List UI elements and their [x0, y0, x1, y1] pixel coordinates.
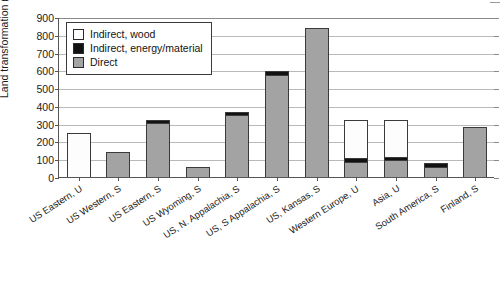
bar-segment-ind-wood [67, 133, 91, 177]
bar-segment-direct [225, 115, 249, 177]
bar-segment-direct [186, 167, 210, 177]
stacked-bar[interactable] [344, 120, 368, 177]
legend-label: Direct [90, 56, 117, 68]
y-axis-tick [55, 178, 59, 179]
y-axis-title: Land transformation (m²/GWh) [0, 0, 10, 98]
x-axis-tick [158, 177, 159, 181]
legend-swatch-icon-indirect-wood [73, 29, 84, 40]
stacked-bar[interactable] [305, 28, 329, 177]
legend-label: Indirect, energy/material [90, 42, 203, 54]
chart-figure: Land transformation (m²/GWh) 01002003004… [0, 0, 502, 282]
bar-segment-direct [463, 127, 487, 177]
x-axis-tick [79, 177, 80, 181]
bar-segment-direct [384, 160, 408, 177]
bar-segment-direct [106, 152, 130, 177]
stacked-bar[interactable] [463, 127, 487, 177]
bar-slot[interactable]: Finland, S [455, 17, 495, 177]
y-axis-tick-label: 800 [36, 30, 54, 42]
y-axis-tick-label: 700 [36, 48, 54, 60]
legend-label: Indirect, wood [90, 28, 155, 40]
bar-slot[interactable]: Asia, U [376, 17, 416, 177]
legend-swatch-icon-direct [73, 57, 84, 68]
x-axis-tick-label: Western Europe, U [287, 183, 361, 236]
bar-segment-ind-wood [344, 120, 368, 158]
bar-slot[interactable]: US, S Appalachia, S [257, 17, 297, 177]
x-axis-tick [277, 177, 278, 181]
legend-item-indirect-wood: Indirect, wood [73, 27, 203, 41]
x-axis-tick [436, 177, 437, 181]
x-axis-tick [317, 177, 318, 181]
y-axis-tick-label: 300 [36, 119, 54, 131]
bar-slot[interactable]: Western Europe, U [336, 17, 376, 177]
stacked-bar[interactable] [67, 133, 91, 177]
stacked-bar[interactable] [424, 163, 448, 177]
y-axis-tick-label: 500 [36, 83, 54, 95]
x-axis-tick-label: Finland, S [439, 182, 481, 215]
stacked-bar[interactable] [265, 71, 289, 177]
bar-segment-direct [305, 28, 329, 177]
bar-slot[interactable]: South America, S [416, 17, 456, 177]
y-axis-tick-label: 400 [36, 101, 54, 113]
x-axis-tick [356, 177, 357, 181]
y-axis-right-tick [494, 178, 499, 179]
bar-segment-direct [265, 75, 289, 177]
bar-segment-direct [146, 123, 170, 177]
y-axis-tick-label: 900 [36, 12, 54, 24]
x-axis-tick [396, 177, 397, 181]
legend-item-direct: Direct [73, 55, 203, 69]
bar-slot[interactable]: US, N. Appalachia, S [218, 17, 258, 177]
x-axis-tick [475, 177, 476, 181]
stacked-bar[interactable] [106, 152, 130, 177]
bar-slot[interactable]: US, Kansas, S [297, 17, 337, 177]
bar-segment-direct [424, 167, 448, 177]
x-axis-tick [118, 177, 119, 181]
y-axis-tick-label: 600 [36, 65, 54, 77]
x-axis-tick-label: US, S Appalachia, S [204, 183, 282, 239]
legend-swatch-icon-indirect-energy-material [73, 43, 84, 54]
x-axis-tick-label: Asia, U [370, 182, 402, 208]
y-axis-tick-label: 100 [36, 154, 54, 166]
x-axis-tick [198, 177, 199, 181]
bar-segment-direct [344, 162, 368, 177]
page-corner-mark [490, 2, 500, 3]
stacked-bar[interactable] [225, 112, 249, 177]
y-axis-tick-label: 200 [36, 136, 54, 148]
stacked-bar[interactable] [186, 167, 210, 177]
stacked-bar[interactable] [384, 120, 408, 177]
legend-item-indirect-energy-material: Indirect, energy/material [73, 41, 203, 55]
stacked-bar[interactable] [146, 120, 170, 177]
chart-legend: Indirect, wood Indirect, energy/material… [66, 22, 212, 75]
bar-segment-ind-wood [384, 120, 408, 157]
y-axis-tick-label: 0 [48, 172, 54, 184]
x-axis-tick [237, 177, 238, 181]
